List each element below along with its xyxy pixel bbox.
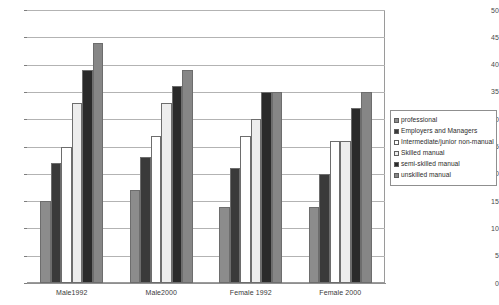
bar-chart: 05101520253035404550 Male1992Male2000Fem…: [0, 0, 499, 305]
y-tick-label: 45: [477, 34, 499, 41]
x-axis-group-label: Male1992: [27, 289, 117, 296]
y-tick-label: 40: [477, 61, 499, 68]
legend-item-label: unskilled manual: [401, 172, 451, 179]
bar: [40, 201, 51, 283]
legend-swatch-icon: [394, 151, 399, 156]
bar: [93, 43, 104, 283]
bar: [272, 92, 283, 283]
legend-item-label: professional: [401, 117, 437, 124]
bar: [351, 108, 362, 283]
bar: [72, 103, 83, 283]
bar: [151, 136, 162, 283]
y-tick-label: 15: [477, 198, 499, 205]
x-axis-group-label: Male2000: [117, 289, 207, 296]
bar: [330, 141, 341, 283]
bar: [230, 168, 241, 283]
legend-swatch-icon: [394, 162, 399, 167]
y-tick-label: 10: [477, 225, 499, 232]
bar: [309, 207, 320, 283]
bar: [51, 163, 62, 283]
bar: [61, 147, 72, 284]
bar: [261, 92, 272, 283]
bar: [161, 103, 172, 283]
legend-item: Employers and Managers: [394, 126, 493, 137]
legend-swatch-icon: [394, 140, 399, 145]
y-tick-label: 50: [477, 7, 499, 14]
legend-item-label: Intermediate/junior non-manual: [401, 139, 494, 146]
bar: [172, 86, 183, 283]
legend-item: professional: [394, 115, 493, 126]
legend-item: Skilled manual: [394, 148, 493, 159]
bar: [219, 207, 230, 283]
legend-swatch-icon: [394, 173, 399, 178]
legend-item: unskilled manual: [394, 170, 493, 181]
legend-item: Intermediate/junior non-manual: [394, 137, 493, 148]
bars-layer: [27, 10, 385, 283]
y-tick-label: 0: [477, 280, 499, 287]
legend: professionalEmployers and ManagersInterm…: [390, 110, 497, 186]
legend-item-label: Employers and Managers: [401, 128, 477, 135]
bar: [361, 92, 372, 283]
bar: [140, 157, 151, 283]
bar: [182, 70, 193, 283]
y-tick-label: 35: [477, 88, 499, 95]
bar: [82, 70, 93, 283]
x-axis-group-label: Female 1992: [206, 289, 296, 296]
y-tick-mark: [24, 283, 27, 284]
x-axis-group-label: Female 2000: [296, 289, 386, 296]
legend-item-label: semi-skilled manual: [401, 161, 460, 168]
bar: [319, 174, 330, 283]
bar: [251, 119, 262, 283]
legend-swatch-icon: [394, 118, 399, 123]
legend-item-label: Skilled manual: [401, 150, 445, 157]
bar: [340, 141, 351, 283]
legend-swatch-icon: [394, 129, 399, 134]
y-tick-label: 5: [477, 252, 499, 259]
bar: [240, 136, 251, 283]
x-axis-line: [27, 283, 386, 284]
bar: [130, 190, 141, 283]
legend-item: semi-skilled manual: [394, 159, 493, 170]
